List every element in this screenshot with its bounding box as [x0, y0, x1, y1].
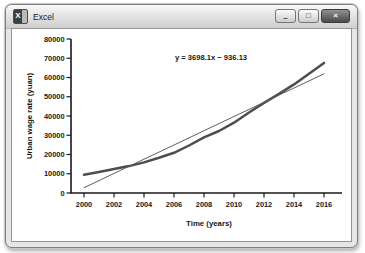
close-button[interactable]: ×: [321, 9, 350, 23]
x-tick-label: 2000: [76, 200, 92, 209]
chart-area: y = 3698.1x − 936.13 Time (years) Urban …: [11, 28, 352, 242]
y-tick-label: 50000: [44, 92, 65, 101]
x-tick-label: 2008: [196, 200, 212, 209]
title-bar[interactable]: X Excel – □ ×: [6, 5, 357, 29]
maximize-button[interactable]: □: [298, 9, 319, 23]
x-tick-label: 2004: [136, 200, 153, 209]
x-tick-label: 2010: [226, 200, 242, 209]
x-tick-label: 2014: [286, 200, 303, 209]
y-tick-label: 60000: [44, 73, 65, 82]
x-tick-label: 2012: [256, 200, 272, 209]
excel-logo-icon: X: [13, 9, 28, 24]
y-tick-label: 30000: [44, 131, 65, 140]
excel-x-glyph: X: [14, 10, 22, 23]
x-axis-label: Time (years): [186, 219, 232, 228]
x-tick-label: 2016: [316, 200, 332, 209]
window-title: Excel: [33, 12, 54, 22]
maximize-icon: □: [306, 12, 311, 20]
y-axis-label: Urban wage rate (yuan): [25, 72, 34, 159]
close-icon: ×: [333, 12, 338, 20]
x-tick-label: 2002: [106, 200, 122, 209]
y-tick-label: 40000: [44, 112, 65, 121]
series-linear-trend: [84, 74, 324, 188]
y-tick-label: 20000: [44, 150, 65, 159]
series-urban-wage-rate: [84, 63, 324, 175]
y-tick-label: 80000: [44, 35, 65, 44]
minimize-button[interactable]: –: [275, 9, 296, 23]
window-controls: – □ ×: [275, 9, 350, 23]
wage-chart: y = 3698.1x − 936.13 Time (years) Urban …: [12, 29, 351, 241]
excel-window: X Excel – □ × y = 3698.1x − 936.13 Time …: [5, 4, 358, 248]
x-tick-label: 2006: [166, 200, 182, 209]
minimize-icon: –: [283, 14, 287, 22]
trendline-equation: y = 3698.1x − 936.13: [175, 53, 247, 62]
y-tick-label: 0: [60, 189, 64, 198]
y-tick-label: 10000: [44, 169, 65, 178]
y-tick-label: 70000: [44, 54, 65, 63]
